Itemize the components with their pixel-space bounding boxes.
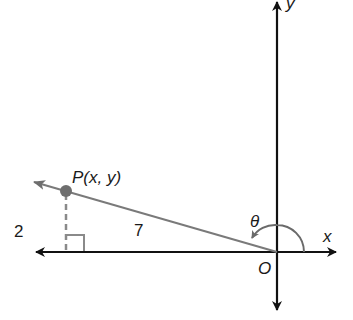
- side-hypotenuse-label: 7: [134, 221, 143, 240]
- right-angle-marker: [66, 235, 84, 251]
- point-p-label: P(x, y): [72, 168, 121, 187]
- x-axis-label: x: [322, 227, 332, 246]
- angle-theta-label: θ: [250, 212, 260, 231]
- y-axis-label: y: [285, 0, 296, 13]
- side-vertical-label: 2: [14, 222, 23, 241]
- origin-label: O: [258, 259, 271, 278]
- point-p: [60, 185, 72, 197]
- coordinate-diagram: P(x, y) 2 7 θ x y O: [0, 0, 353, 320]
